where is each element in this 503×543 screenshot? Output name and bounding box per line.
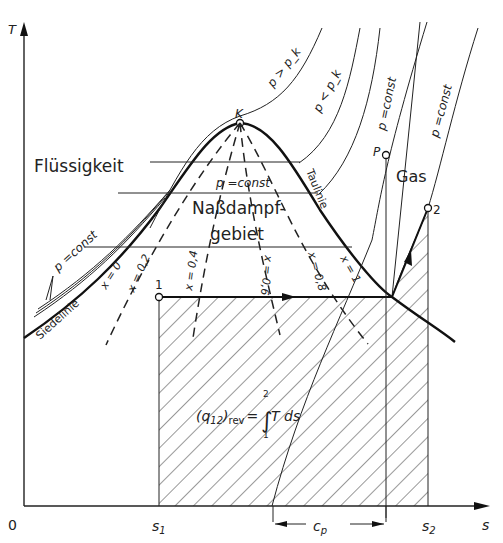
region-gas-label: Gas (396, 167, 427, 186)
svg-text:2: 2 (263, 389, 269, 399)
svg-text:1: 1 (263, 430, 269, 440)
isobar-inside-label: p =const (215, 176, 271, 190)
isobar-liquid-b (36, 194, 167, 313)
point-1-marker (156, 294, 163, 301)
point-2-label: 2 (433, 203, 441, 217)
x02-label: x = 0,2 (124, 252, 153, 295)
isobar-gas-1-label: p =const (374, 75, 399, 133)
x06-label: x = 0,6 (258, 254, 275, 296)
cp-label: cp (313, 518, 327, 536)
region-liquid-label: Flüssigkeit (34, 156, 124, 176)
isobar-gas-2-label: p =const (427, 82, 455, 140)
x08-label: x = 0,8 (305, 249, 329, 292)
cp-left-arrow-icon (275, 521, 287, 527)
point-1-label: 1 (155, 278, 163, 292)
isobar-supercritical-label: p > p_k (264, 44, 305, 90)
isobar-through-2 (392, 28, 478, 297)
region-wet-steam-label-1: Naßdampf- (192, 198, 286, 218)
origin-label: 0 (8, 517, 17, 533)
point-p-label: P (373, 145, 381, 159)
ts-diagram: T s 0 s1 s2 cp Flüssigkeit Naßdampf- geb… (0, 0, 503, 543)
s-axis-arrow-icon (474, 502, 490, 510)
t-axis-arrow-icon (20, 22, 28, 36)
isobar-liquid-c (38, 190, 170, 309)
t-axis-label: T (8, 22, 17, 37)
x1-label: x = 1 (337, 252, 364, 285)
cp-right-arrow-icon (372, 521, 384, 527)
region-wet-steam-label-2: gebiet (210, 224, 264, 244)
point-2-marker (425, 205, 432, 212)
svg-text:T ds: T ds (271, 408, 300, 424)
x04-label: x = 0,4 (182, 250, 201, 293)
svg-text:(q12)rev=: (q12)rev= (196, 408, 258, 426)
isobar-3 (319, 28, 380, 194)
point-p-marker (383, 152, 390, 159)
critical-point-label: K (235, 107, 244, 121)
siedelinie-label: Siedelinie (33, 297, 82, 343)
s1-label: s1 (152, 518, 166, 536)
liquid-isobar-hook (46, 276, 53, 300)
s2-label: s2 (422, 518, 436, 536)
s-axis-label: s (482, 517, 489, 533)
cp-dimension (273, 506, 386, 527)
